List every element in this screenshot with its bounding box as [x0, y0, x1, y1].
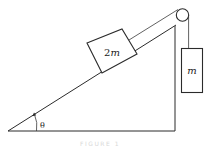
pulley — [176, 9, 188, 21]
angle-arc — [35, 115, 37, 132]
incline-block-label: 2m — [104, 47, 120, 58]
hanging-block-label: m — [187, 65, 196, 76]
angle-label: θ — [40, 121, 45, 130]
figure-caption: FIGURE 1 — [80, 140, 120, 147]
incline-pulley-diagram: 2m m θ FIGURE 1 — [0, 0, 208, 149]
string-incline — [129, 10, 178, 41]
